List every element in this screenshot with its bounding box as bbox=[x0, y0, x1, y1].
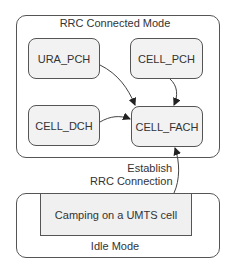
establish-label-line1: Establish bbox=[90, 162, 172, 175]
establish-label-line2: RRC Connection bbox=[90, 175, 172, 188]
state-cell-fach-label: CELL_FACH bbox=[136, 121, 199, 133]
state-cell-pch-label: CELL_PCH bbox=[138, 53, 195, 65]
state-camping-label: Camping on a UMTS cell bbox=[55, 209, 177, 221]
state-ura-pch-label: URA_PCH bbox=[38, 53, 91, 65]
establish-rrc-connection-label: Establish RRC Connection bbox=[90, 162, 172, 188]
idle-mode-title: Idle Mode bbox=[0, 240, 230, 252]
state-camping-on-umts-cell: Camping on a UMTS cell bbox=[40, 193, 192, 236]
state-cell-fach: CELL_FACH bbox=[131, 106, 203, 147]
rrc-connected-mode-title: RRC Connected Mode bbox=[0, 17, 230, 29]
state-ura-pch: URA_PCH bbox=[28, 38, 100, 79]
state-cell-dch: CELL_DCH bbox=[28, 105, 100, 146]
state-cell-dch-label: CELL_DCH bbox=[35, 120, 92, 132]
state-cell-pch: CELL_PCH bbox=[130, 38, 203, 79]
